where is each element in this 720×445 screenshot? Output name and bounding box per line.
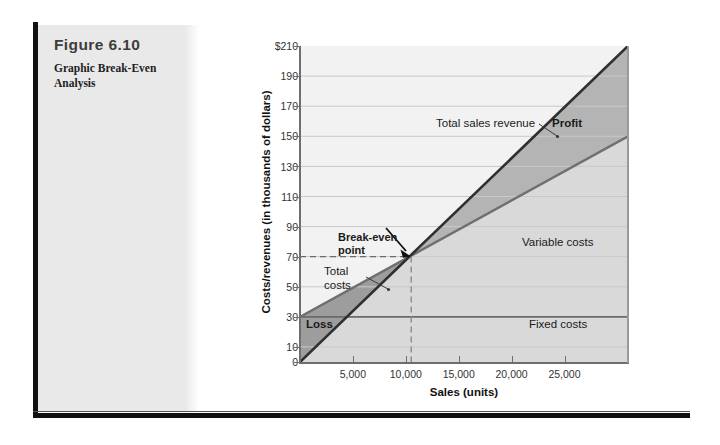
y-tick-130: 130 <box>252 161 298 173</box>
variable-costs-label: Variable costs <box>522 236 593 248</box>
y-tickmark-150 <box>294 136 300 137</box>
x-tick-label-25000: 25,000 <box>535 368 595 380</box>
break-even-point-label-line2: point <box>338 244 434 257</box>
y-tickmark-30 <box>294 317 300 318</box>
y-tick-0: 0 <box>252 356 298 368</box>
break-even-point-label: Break-even point <box>338 231 434 257</box>
x-tick-label-5000: 5,000 <box>323 368 383 380</box>
x-tickmark-15000 <box>459 356 460 363</box>
y-tickmark-50 <box>294 287 300 288</box>
x-tick-label-20000: 20,000 <box>482 368 542 380</box>
y-tickmark-130 <box>294 166 300 167</box>
total-sales-revenue-leader-dot <box>556 135 559 138</box>
plot-right-border <box>627 46 629 363</box>
y-tickmark-210 <box>294 46 300 47</box>
y-tick-10: 10 <box>252 341 298 353</box>
x-tickmark-5000 <box>353 356 354 363</box>
figure-caption-panel-fade <box>185 25 199 411</box>
chart-svg <box>300 46 628 362</box>
total-costs-label-line2: costs <box>324 278 384 292</box>
break-even-point-label-line1: Break-even <box>338 231 434 244</box>
y-tick-70: 70 <box>252 251 298 263</box>
y-tick-170: 170 <box>252 100 298 112</box>
y-tick-90: 90 <box>252 221 298 233</box>
y-tick-110: 110 <box>252 191 298 203</box>
y-tick-30: 30 <box>252 311 298 323</box>
figure-title: Graphic Break-Even Analysis <box>54 61 174 91</box>
y-tickmark-170 <box>294 106 300 107</box>
total-costs-label-line1: Total <box>324 264 384 278</box>
figure-frame-bottom-hairline <box>33 411 690 412</box>
y-tickmark-90 <box>294 227 300 228</box>
y-tick-190: 190 <box>252 70 298 82</box>
total-sales-revenue-label: Total sales revenue <box>436 117 535 129</box>
x-axis-line <box>299 362 629 364</box>
x-tick-label-15000: 15,000 <box>429 368 489 380</box>
y-tickmark-110 <box>294 197 300 198</box>
x-tickmark-10000 <box>406 356 407 363</box>
total-costs-label: Total costs <box>324 264 384 292</box>
y-tick-150: 150 <box>252 130 298 142</box>
figure-frame-bottom-border <box>33 413 690 418</box>
y-tickmark-190 <box>294 76 300 77</box>
figure-number: Figure 6.10 <box>54 36 194 54</box>
fixed-costs-label: Fixed costs <box>529 318 587 330</box>
y-tickmark-70 <box>294 257 300 258</box>
loss-label: Loss <box>306 318 333 330</box>
x-tickmark-20000 <box>512 356 513 363</box>
total-costs-leader-dot <box>387 288 390 291</box>
y-axis-line <box>299 46 301 363</box>
y-axis-title: Costs/revenues (in thousands of dollars) <box>260 52 272 352</box>
profit-label: Profit <box>552 117 582 129</box>
y-tick-50: 50 <box>252 281 298 293</box>
y-axis-title-wrapper: Costs/revenues (in thousands of dollars) <box>236 0 256 410</box>
x-tickmark-25000 <box>565 356 566 363</box>
x-tick-label-10000: 10,000 <box>376 368 436 380</box>
x-axis-title: Sales (units) <box>300 386 628 398</box>
chart-plot-area <box>300 46 628 362</box>
y-tick-210: $210 <box>252 40 298 52</box>
figure-page: Figure 6.10 Graphic Break-Even Analysis <box>0 0 720 445</box>
y-tickmark-0 <box>294 362 300 363</box>
y-tickmark-10 <box>294 347 300 348</box>
